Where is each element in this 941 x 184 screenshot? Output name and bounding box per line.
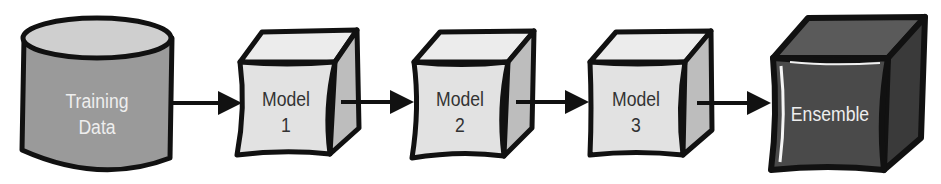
ensemble-cube [771, 17, 925, 170]
training-data-label-line2: Data [35, 114, 158, 140]
model-1-label-line1: Model [246, 86, 327, 112]
model-3-label-line2: 3 [596, 112, 677, 138]
model-1-label-line2: 1 [246, 112, 327, 138]
model-2-label-line2: 2 [420, 112, 501, 138]
ensemble-label-line1: Ensemble [782, 101, 879, 127]
model-3-label-line1: Model [596, 86, 677, 112]
training-data-label-line1: Training [35, 88, 158, 114]
model-1-label: Model 1 [246, 86, 327, 138]
training-data-label: Training Data [35, 88, 158, 140]
ensemble-label: Ensemble [782, 101, 879, 127]
model-2-label-line1: Model [420, 86, 501, 112]
model-2-label: Model 2 [420, 86, 501, 138]
model-3-label: Model 3 [596, 86, 677, 138]
